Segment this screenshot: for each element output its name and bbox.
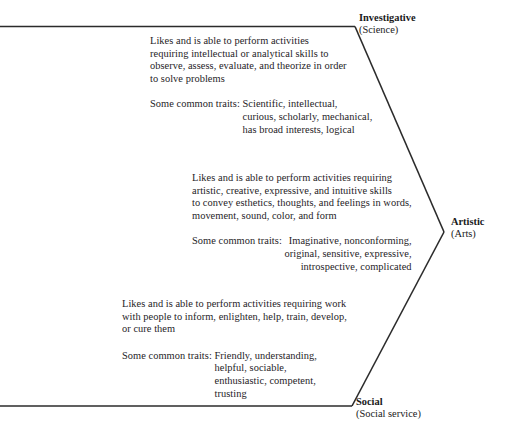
label-social: Social (Social service) — [356, 396, 421, 421]
description-line: observe, assess, evaluate, and theorize … — [150, 60, 372, 73]
label-artistic-name: Artistic — [451, 216, 484, 228]
traits-line: has broad interests, logical — [243, 124, 373, 137]
description-line: with people to inform, enlighten, help, … — [122, 311, 347, 324]
description-line: Likes and is able to perform activities … — [192, 172, 412, 185]
description-line: artistic, creative, expressive, and intu… — [192, 185, 412, 198]
traits-line: introspective, complicated — [285, 261, 412, 274]
traits-line: helpful, sociable, — [215, 362, 317, 375]
label-artistic: Artistic (Arts) — [451, 216, 484, 241]
traits-artistic: Some common traits: Imaginative, nonconf… — [192, 235, 412, 273]
description-line: requiring intellectual or analytical ski… — [150, 48, 372, 61]
traits-line: original, sensitive, expressive, — [285, 248, 412, 261]
traits-label: Some common traits: — [192, 235, 282, 248]
traits-label: Some common traits: — [150, 98, 240, 111]
label-artistic-subtitle: (Arts) — [451, 228, 484, 240]
description-investigative: Likes and is able to perform activities … — [150, 35, 372, 85]
text-block-investigative: Likes and is able to perform activities … — [150, 35, 372, 136]
traits-line: curious, scholarly, mechanical, — [243, 111, 373, 124]
description-line: to solve problems — [150, 73, 372, 86]
traits-line: Scientific, intellectual, — [243, 98, 373, 111]
description-line: Likes and is able to perform activities … — [122, 298, 347, 311]
description-artistic: Likes and is able to perform activities … — [192, 172, 412, 222]
traits-label: Some common traits: — [122, 350, 212, 363]
description-line: to convey esthetics, thoughts, and feeli… — [192, 197, 412, 210]
description-line: Likes and is able to perform activities — [150, 35, 372, 48]
text-block-artistic: Likes and is able to perform activities … — [192, 172, 412, 273]
label-investigative: Investigative (Science) — [359, 12, 416, 37]
traits-list: Scientific, intellectual, curious, schol… — [243, 98, 373, 136]
description-social: Likes and is able to perform activities … — [122, 298, 347, 336]
traits-line: enthusiastic, competent, — [215, 375, 317, 388]
label-investigative-subtitle: (Science) — [359, 24, 416, 36]
label-social-name: Social — [356, 396, 421, 408]
traits-investigative: Some common traits: Scientific, intellec… — [150, 98, 372, 136]
traits-line: Friendly, understanding, — [215, 350, 317, 363]
text-block-social: Likes and is able to perform activities … — [122, 298, 347, 400]
traits-line: trusting — [215, 388, 317, 401]
diagram-canvas: Likes and is able to perform activities … — [0, 0, 509, 441]
traits-social: Some common traits: Friendly, understand… — [122, 350, 347, 400]
label-social-subtitle: (Social service) — [356, 408, 421, 420]
traits-list: Friendly, understanding, helpful, sociab… — [215, 350, 317, 400]
traits-line: Imaginative, nonconforming, — [285, 235, 412, 248]
label-investigative-name: Investigative — [359, 12, 416, 24]
traits-list: Imaginative, nonconforming, original, se… — [285, 235, 412, 273]
description-line: or cure them — [122, 323, 347, 336]
description-line: movement, sound, color, and form — [192, 210, 412, 223]
